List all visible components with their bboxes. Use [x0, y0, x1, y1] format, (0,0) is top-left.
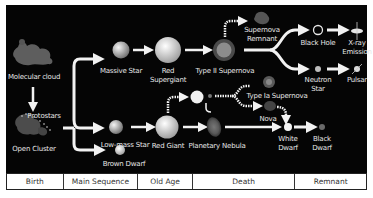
label-red-supergiant-1: Red	[150, 67, 186, 75]
type-ia-supernova-icon	[263, 76, 275, 88]
red-giant-icon	[156, 116, 179, 139]
type-ii-supernova-icon	[213, 39, 235, 61]
planetary-nebula-icon	[205, 116, 224, 139]
stage-old-age: Old Age	[138, 174, 193, 189]
neutron-star-icon	[315, 66, 321, 72]
label-type-ia-supernova: Type Ia Supernova	[244, 92, 310, 100]
pulsar-icon	[352, 64, 362, 74]
nova-icon	[264, 101, 276, 111]
binary-companion-icon	[208, 94, 212, 98]
xray-emission-icon	[351, 22, 363, 40]
label-red-giant: Red Giant	[150, 142, 186, 150]
label-neutron-star-1: Neutron	[302, 76, 334, 84]
label-xray-1: X-ray	[342, 39, 372, 47]
label-supernova-remnant-1: Supernova	[242, 26, 282, 34]
black-dwarf-icon	[319, 124, 325, 130]
label-protostars: Protostars	[25, 112, 63, 120]
stage-birth: Birth	[7, 174, 64, 189]
label-black-dwarf-2: Dwarf	[308, 144, 336, 152]
label-white-dwarf-2: Dwarf	[274, 144, 302, 152]
label-brown-dwarf: Brown Dwarf	[100, 160, 148, 168]
label-red-supergiant-2: Supergiant	[150, 76, 186, 84]
arrow-to-low-mass-star	[74, 59, 100, 128]
stage-main-sequence: Main Sequence	[64, 174, 139, 189]
arrow-to-brown-dwarf	[74, 128, 101, 150]
stage-bar: Birth Main Sequence Old Age Death Remnan…	[6, 173, 367, 190]
label-white-dwarf-1: White	[274, 135, 302, 143]
arrow-red-giant-to-binary	[168, 97, 185, 113]
label-black-dwarf-1: Black	[308, 135, 336, 143]
label-planetary-nebula: Planetary Nebula	[186, 142, 248, 150]
label-open-cluster: Open Cluster	[10, 145, 58, 153]
evolution-diagram	[0, 0, 373, 198]
label-low-mass-star: Low-mass Star	[98, 141, 152, 149]
label-type-ii-supernova: Type II Supernova	[194, 67, 256, 75]
low-mass-star-icon	[109, 120, 123, 134]
label-black-hole: Black Hole	[298, 39, 338, 47]
stage-death: Death	[193, 174, 295, 189]
red-supergiant-icon	[155, 37, 181, 63]
white-dwarf-icon	[284, 123, 292, 131]
label-supernova-remnant-2: Remnant	[242, 35, 282, 43]
supernova-remnant-icon	[254, 12, 269, 24]
label-xray-2: Emission	[340, 48, 373, 56]
label-nova: Nova	[256, 115, 280, 123]
binary-white-dwarf-icon	[191, 91, 204, 104]
black-hole-icon	[314, 26, 323, 35]
label-molecular-cloud: Molecular cloud	[8, 73, 60, 81]
label-massive-star: Massive Star	[98, 67, 144, 75]
label-pulsar: Pulsar	[343, 76, 371, 84]
stage-remnant: Remnant	[295, 174, 366, 189]
massive-star-icon	[113, 42, 130, 59]
molecular-cloud-icon	[13, 39, 52, 65]
arrow-to-neutron-star	[270, 50, 305, 69]
